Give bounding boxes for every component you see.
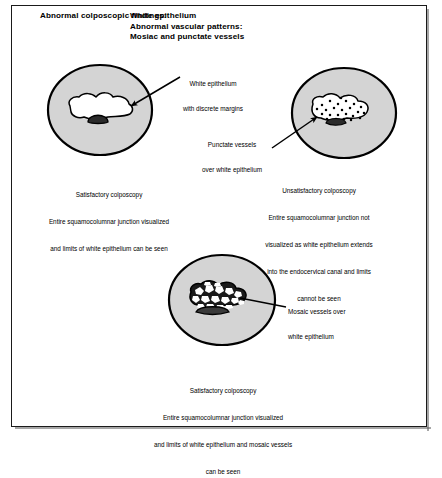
figure-title-line-2: Abnormal vascular patterns:: [130, 22, 244, 33]
annotation-punctate-line-1: Punctate vessels: [186, 141, 278, 149]
caption-left-line-1: Satisfactory colposcopy: [14, 190, 204, 199]
caption-panel-bottom: Satisfactory colposcopy Entire squamocol…: [94, 368, 352, 478]
caption-bottom-line-3: and limits of white epithelium and mosai…: [94, 440, 352, 449]
cervix-left: [48, 65, 152, 155]
caption-right-line-3: visualized as white epithelium extends: [222, 240, 416, 249]
figure-title-line-1: White epithelium: [130, 11, 244, 22]
caption-panel-left: Satisfactory colposcopy Entire squamocol…: [14, 172, 204, 262]
cervical-os-right: [326, 119, 346, 126]
annotation-white-epithelium: White epithelium with discrete margins: [167, 63, 259, 122]
figure-title-line-3: Mosiac and punctate vessels: [130, 32, 244, 43]
caption-right-line-2: Entire squamocolumnar junction not: [222, 213, 416, 222]
caption-bottom-line-2: Entire squamocolumnar junction visualize…: [94, 413, 352, 422]
cervical-os-left: [88, 115, 108, 123]
caption-right-line-1: Unsatisfactory colposcopy: [222, 186, 416, 195]
annotation-mosaic-line-2: white epithelium: [288, 333, 372, 341]
figure-title-findings: White epithelium Abnormal vascular patte…: [130, 11, 244, 43]
caption-left-line-2: Entire squamocolumnar junction visualize…: [14, 217, 204, 226]
caption-right-line-5: cannot be seen: [222, 294, 416, 303]
caption-right-line-4: into the endocervical canal and limits: [222, 267, 416, 276]
caption-panel-right: Unsatisfactory colposcopy Entire squamoc…: [222, 168, 416, 312]
caption-left-line-3: and limits of white epithelium can be se…: [14, 244, 204, 253]
cervix-right: [292, 68, 396, 158]
annotation-white-epithelium-line-2: with discrete margins: [167, 105, 259, 113]
annotation-white-epithelium-line-1: White epithelium: [167, 80, 259, 88]
caption-bottom-line-4: can be seen: [94, 467, 352, 476]
caption-bottom-line-1: Satisfactory colposcopy: [94, 386, 352, 395]
